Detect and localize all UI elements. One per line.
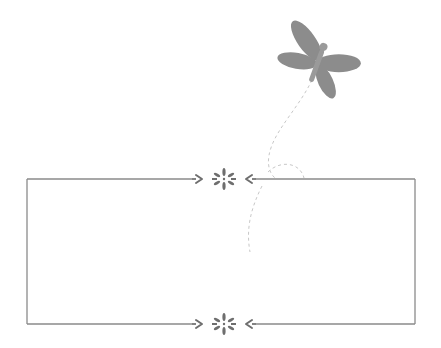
- flight-trail: [249, 80, 313, 252]
- frame-illustration: [0, 0, 441, 348]
- bottom-ornament-icon: [192, 313, 256, 335]
- top-ornament-icon: [192, 168, 256, 190]
- frame-border: [27, 179, 415, 324]
- decorative-frame-canvas: [0, 0, 441, 348]
- dragonfly-icon: [266, 12, 372, 108]
